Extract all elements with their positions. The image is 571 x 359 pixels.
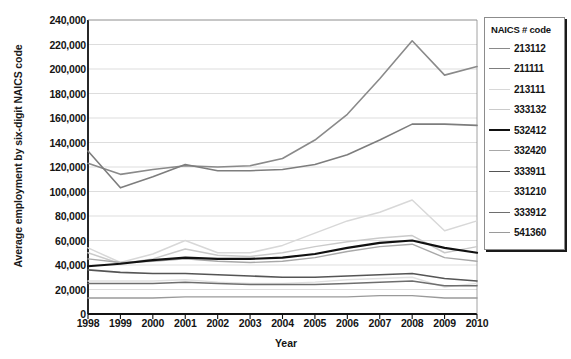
legend-label: 213112 <box>514 43 546 54</box>
x-tick-label: 1998 <box>77 317 100 329</box>
x-tick-label: 2005 <box>304 317 327 329</box>
legend-swatch-icon <box>489 232 510 233</box>
x-tick-label: 2003 <box>239 317 262 329</box>
x-axis-title: Year <box>275 337 297 349</box>
legend-label: 333912 <box>514 207 546 218</box>
legend-swatch-icon <box>489 212 510 213</box>
employment-line-chart: Average employment by six-digit NAICS co… <box>0 0 571 359</box>
legend-swatch-icon <box>489 191 510 192</box>
legend-label: 333132 <box>514 104 546 115</box>
legend-swatch-icon <box>489 150 510 151</box>
legend-swatch-icon <box>489 89 510 90</box>
legend-label: 541360 <box>514 227 546 238</box>
legend-swatch-icon <box>489 48 510 49</box>
legend-swatch-icon <box>489 68 510 69</box>
x-tick-label: 2009 <box>433 317 456 329</box>
legend-item-list: 2131122111112131113331325324123324203339… <box>485 38 564 243</box>
x-tick-label: 2007 <box>369 317 392 329</box>
x-tick-label: 1999 <box>109 317 132 329</box>
legend-label: 211111 <box>514 63 544 74</box>
legend-item-541360[interactable]: 541360 <box>485 223 564 244</box>
legend-item-532412[interactable]: 532412 <box>485 120 564 141</box>
x-tick-label: 2004 <box>271 317 294 329</box>
legend-label: 333911 <box>514 166 546 177</box>
x-tick-label: 2000 <box>142 317 165 329</box>
legend-label: 331210 <box>514 186 546 197</box>
legend-label: 532412 <box>514 125 546 136</box>
x-tick-label: 2008 <box>401 317 424 329</box>
legend-label: 332420 <box>514 145 546 156</box>
legend-item-213112[interactable]: 213112 <box>485 38 564 59</box>
legend-item-332420[interactable]: 332420 <box>485 141 564 162</box>
legend-item-333911[interactable]: 333911 <box>485 161 564 182</box>
legend-swatch-icon <box>489 171 510 172</box>
legend-item-333132[interactable]: 333132 <box>485 100 564 121</box>
legend-item-213111[interactable]: 213111 <box>485 79 564 100</box>
legend: NAICS # code 213112211111213111333132532… <box>484 17 565 250</box>
x-tick-label: 2002 <box>206 317 229 329</box>
legend-title: NAICS # code <box>491 24 564 35</box>
x-tick-label: 2006 <box>336 317 359 329</box>
legend-item-331210[interactable]: 331210 <box>485 182 564 203</box>
x-tick-label: 2010 <box>466 317 489 329</box>
legend-label: 213111 <box>514 84 545 95</box>
legend-item-211111[interactable]: 211111 <box>485 59 564 80</box>
x-tick-label: 2001 <box>174 317 197 329</box>
legend-swatch-icon <box>489 109 510 110</box>
legend-item-333912[interactable]: 333912 <box>485 202 564 223</box>
legend-swatch-icon <box>489 129 510 131</box>
